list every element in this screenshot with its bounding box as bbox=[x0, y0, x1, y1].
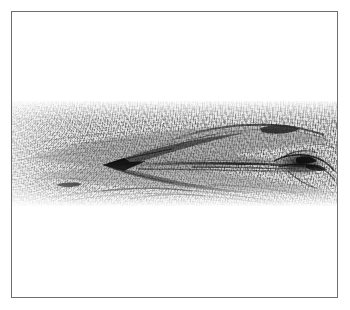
figure-frame bbox=[11, 11, 338, 298]
figure-plate bbox=[12, 12, 337, 297]
right-knot-group bbox=[274, 144, 337, 189]
figure-alt-text: Grayscale micrograph: horizontal fibrous… bbox=[0, 0, 1, 1]
figure-root: Grayscale micrograph: horizontal fibrous… bbox=[0, 0, 350, 310]
fiber-structure-overlay bbox=[12, 101, 337, 206]
specimen-band bbox=[12, 101, 337, 206]
